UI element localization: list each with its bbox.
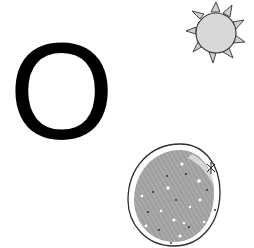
sun-icon (183, 0, 249, 66)
moon-icon (122, 138, 226, 248)
letter-glyph: O (9, 22, 114, 160)
